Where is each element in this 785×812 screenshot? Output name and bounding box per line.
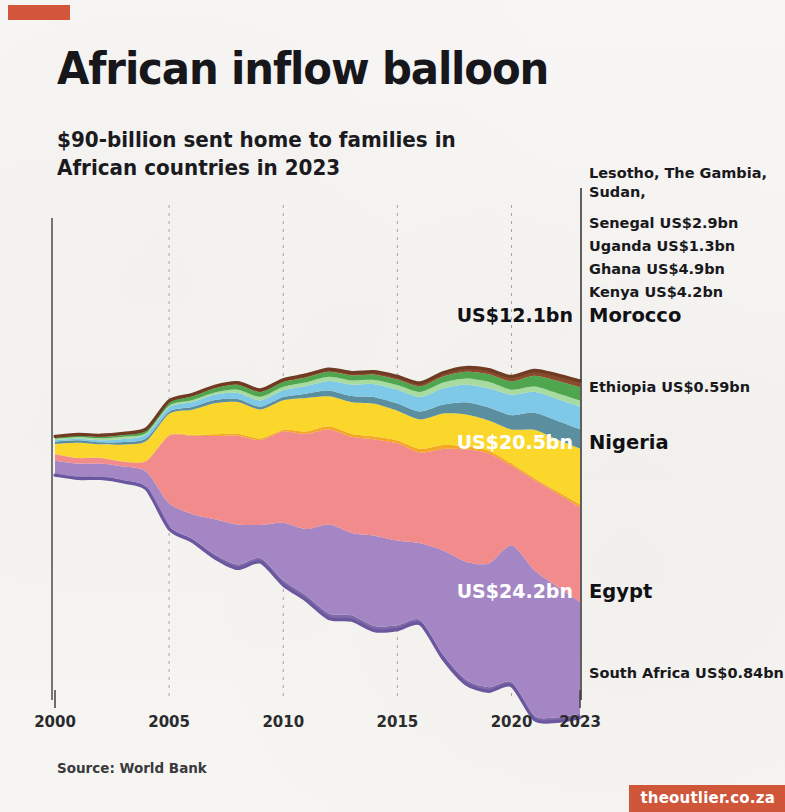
label-egypt: Egypt xyxy=(589,580,652,603)
label-lesotho-gambia-sudan: Sudan, xyxy=(589,184,646,200)
x-tick-label-2023: 2023 xyxy=(559,713,601,731)
label-uganda: Uganda US$1.3bn xyxy=(589,238,735,254)
x-tick-label-2015: 2015 xyxy=(377,713,419,731)
right-label-list: Lesotho, The Gambia,Sudan,Senegal US$2.9… xyxy=(589,165,784,681)
value-morocco: US$12.1bn xyxy=(457,304,573,326)
x-tick-label-2005: 2005 xyxy=(148,713,190,731)
x-tick-label-2020: 2020 xyxy=(491,713,533,731)
label-ghana: Ghana US$4.9bn xyxy=(589,261,725,277)
publisher-badge: theoutlier.co.za xyxy=(629,785,785,812)
label-kenya: Kenya US$4.2bn xyxy=(589,284,723,300)
label-morocco: Morocco xyxy=(589,304,681,327)
label-south-africa: South Africa US$0.84bn xyxy=(589,665,784,681)
x-tick-label-2010: 2010 xyxy=(262,713,304,731)
label-lesotho-gambia-sudan: Lesotho, The Gambia, xyxy=(589,165,767,181)
label-ethiopia: Ethiopia US$0.59bn xyxy=(589,379,750,395)
value-nigeria: US$20.5bn xyxy=(457,431,573,453)
streamgraph-svg: 200020052010201520202023 US$12.1bnUS$20.… xyxy=(0,0,785,812)
label-senegal: Senegal US$2.9bn xyxy=(589,215,738,231)
label-nigeria: Nigeria xyxy=(589,431,669,454)
x-tick-label-2000: 2000 xyxy=(34,713,76,731)
stacked-bands xyxy=(55,367,580,722)
value-egypt: US$24.2bn xyxy=(457,580,573,602)
source-note: Source: World Bank xyxy=(57,760,207,776)
streamgraph-chart: 200020052010201520202023 US$12.1bnUS$20.… xyxy=(0,0,785,812)
x-axis-ticks: 200020052010201520202023 xyxy=(34,690,601,731)
